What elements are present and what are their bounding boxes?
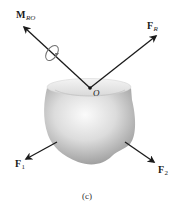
label-f2: F2 xyxy=(158,165,168,175)
resultant-force-arrow xyxy=(90,36,156,88)
label-m-ro-symbol: M xyxy=(16,9,25,20)
label-m-ro-subscript: RO xyxy=(26,14,35,22)
label-point-o: O xyxy=(93,89,100,98)
label-f1-symbol: F xyxy=(15,158,21,169)
force-f1-arrow xyxy=(26,142,57,159)
label-f2-subscript: 2 xyxy=(165,169,169,177)
diagram-canvas xyxy=(0,0,178,209)
label-f-r-subscript: R xyxy=(154,25,158,33)
body-shape xyxy=(44,88,135,164)
force-f2-arrow xyxy=(125,142,154,162)
force-system-diagram: MRO FR O F1 F2 (c) xyxy=(0,0,178,209)
figure-caption: (c) xyxy=(82,192,92,201)
label-f2-symbol: F xyxy=(158,164,164,175)
point-o-dot xyxy=(88,86,92,90)
rigid-body xyxy=(44,79,135,165)
label-f1-subscript: 1 xyxy=(22,163,26,171)
label-f-r-symbol: F xyxy=(147,20,153,31)
moment-arrow xyxy=(24,27,90,88)
moment-vector-m-ro xyxy=(24,27,90,88)
label-f1: F1 xyxy=(15,159,25,169)
label-m-ro: MRO xyxy=(16,10,35,20)
label-f-r: FR xyxy=(147,21,158,31)
